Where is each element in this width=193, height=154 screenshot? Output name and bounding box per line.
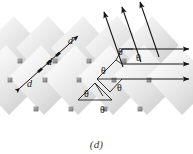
atom (147, 78, 152, 83)
atom (122, 59, 127, 64)
atom (8, 78, 13, 83)
angle-label: θ (100, 104, 105, 115)
angle-label: θ (118, 46, 123, 57)
atom (43, 78, 48, 83)
atom (77, 78, 82, 83)
angle-label: θ (117, 82, 122, 93)
atom (53, 59, 58, 64)
angle-label: θ (84, 88, 89, 99)
atom (87, 59, 92, 64)
atom (138, 107, 143, 112)
figure-caption: (d) (0, 138, 193, 150)
angle-label: θ (136, 52, 141, 63)
atom (18, 59, 23, 64)
angle-label: θ (101, 65, 106, 76)
atom (112, 78, 117, 83)
diagram-canvas: d d d θ θ θ θ θ θ (0, 0, 193, 154)
atom (69, 107, 74, 112)
atom (34, 107, 39, 112)
bragg-diffraction-figure: d d d θ θ θ θ θ θ (d) (0, 0, 193, 154)
